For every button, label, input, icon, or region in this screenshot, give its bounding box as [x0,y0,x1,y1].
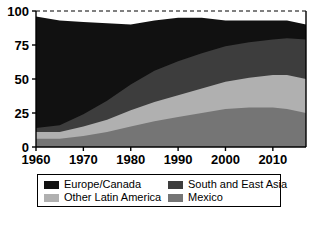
y-tick-label: 50 [15,72,29,87]
legend-label: Europe/Canada [64,179,141,190]
x-tick-label: 2010 [258,152,287,165]
legend-item: Europe/Canada [44,179,168,190]
y-tick-label: 25 [15,106,29,121]
legend-label: Other Latin America [64,192,161,203]
chart-legend: Europe/CanadaSouth and East AsiaOther La… [37,174,281,207]
series-areas [36,16,306,147]
x-tick-label: 1990 [164,152,193,165]
x-tick-label: 1970 [69,152,98,165]
plot-area: 0255075100 196019701980199020002010 [0,0,318,165]
legend-item: Other Latin America [44,192,168,203]
x-tick-label: 1960 [22,152,51,165]
legend-swatch-icon [44,181,59,189]
legend-label: South and East Asia [188,179,287,190]
x-tick-label: 2000 [211,152,240,165]
y-axis-ticks: 0255075100 [7,4,36,155]
legend-swatch-icon [168,181,183,189]
y-tick-label: 100 [7,4,29,19]
chart-svg: 0255075100 196019701980199020002010 [0,0,318,165]
legend-swatch-icon [44,194,59,202]
legend-item: South and East Asia [168,179,287,190]
legend-swatch-icon [168,194,183,202]
x-axis-ticks: 196019701980199020002010 [22,147,288,165]
stacked-area-chart-figure: 0255075100 196019701980199020002010 Euro… [0,0,318,225]
legend-label: Mexico [188,192,223,203]
x-tick-label: 1980 [116,152,145,165]
legend-item: Mexico [168,192,287,203]
y-tick-label: 75 [15,38,29,53]
